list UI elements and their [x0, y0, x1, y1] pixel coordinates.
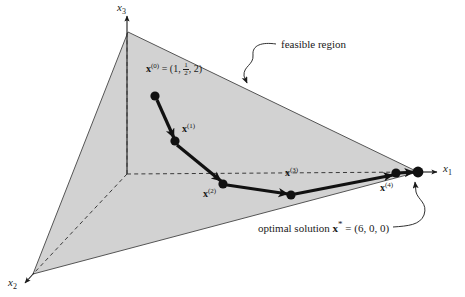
optimal-solution-value: = (6, 0, 0): [343, 222, 390, 234]
feasible-region-polygon: [33, 32, 418, 274]
iterate-point-x3[interactable]: [286, 190, 295, 199]
axis-x2-line: [25, 273, 34, 283]
fraction-denominator: 2: [183, 70, 189, 77]
optimal-solution-label: optimal solution x* = (6, 0, 0): [258, 220, 389, 234]
iterate-arrow-4-opt: [399, 172, 414, 173]
optimal-solution-leader: [393, 182, 425, 227]
figure-canvas: x1 x2 x3 feasible region optimal solutio…: [0, 0, 465, 297]
iterate-label-x0-suffix: , 2): [189, 63, 202, 74]
iterate-label-x0-prefix: = (1,: [159, 63, 183, 74]
iterate-label-x0-fraction: 12: [183, 62, 189, 78]
feasible-region-label: feasible region: [281, 39, 346, 50]
iterate-label-x0: x(0) = (1, 12, 2): [146, 62, 202, 78]
feasible-region-leader: [244, 43, 276, 83]
iterate-label-x4-superscript: (4): [385, 181, 393, 189]
optimal-solution-point[interactable]: [413, 167, 424, 178]
iterate-label-x2-superscript: (2): [208, 187, 216, 195]
iterate-label-x1: x(1): [182, 123, 195, 134]
optimal-solution-prefix: optimal solution: [258, 222, 333, 234]
iterate-point-x1[interactable]: [170, 136, 179, 145]
iterate-label-x1-superscript: (1): [187, 122, 195, 130]
axis-label-x2: x2: [8, 277, 17, 291]
iterate-point-x2[interactable]: [218, 179, 227, 188]
iterate-point-x4[interactable]: [391, 168, 400, 177]
axis-label-x3: x3: [117, 2, 126, 16]
iterate-label-x3: x(3): [285, 167, 298, 178]
diagram-svg: [0, 0, 465, 297]
axis-label-x1: x1: [443, 163, 452, 177]
iterate-label-x0-superscript: (0): [151, 62, 159, 70]
iterate-label-x3-superscript: (3): [290, 166, 298, 174]
iterate-label-x4: x(4): [380, 182, 393, 193]
iterate-point-x0[interactable]: [150, 91, 159, 100]
iterate-label-x2: x(2): [203, 188, 216, 199]
